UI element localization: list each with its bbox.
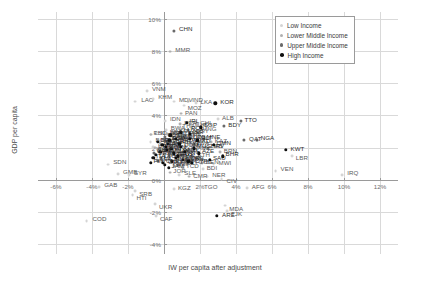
data-point[interactable] [274, 169, 277, 172]
data-point-label: SAU [213, 154, 226, 161]
x-tick-label: -6% [50, 183, 61, 190]
data-point-label: SDN [113, 158, 126, 165]
data-point-label: IRL [190, 117, 200, 124]
data-point[interactable] [154, 146, 157, 149]
legend-item-lower-middle-income[interactable]: Lower Middle Income [280, 30, 348, 40]
x-tick-mark [56, 178, 57, 181]
x-tick-label: 12% [374, 183, 387, 190]
data-point-label: BEL [161, 136, 173, 143]
data-point-label: TGO [204, 183, 218, 190]
data-point[interactable] [187, 100, 190, 103]
x-tick-mark [380, 178, 381, 181]
y-tick-label: -4% [150, 241, 161, 248]
data-point[interactable] [169, 171, 172, 174]
x-tick-mark [344, 178, 345, 181]
data-point[interactable] [117, 173, 120, 176]
data-point[interactable] [134, 190, 137, 193]
legend-marker-icon [280, 34, 283, 37]
data-point[interactable] [290, 155, 293, 158]
data-point[interactable] [199, 186, 202, 189]
data-point[interactable] [188, 175, 191, 178]
data-point-label: IRQ [347, 169, 358, 176]
data-point[interactable] [131, 194, 134, 197]
data-point-label: PAN [185, 109, 197, 116]
data-point[interactable] [107, 163, 110, 166]
legend-label: Upper Middle Income [287, 42, 348, 49]
data-point[interactable] [284, 148, 287, 151]
data-point[interactable] [245, 186, 248, 189]
data-point-label: KWT [291, 145, 305, 152]
data-point-label: KHM [158, 93, 172, 100]
data-point-label: KGZ [178, 184, 191, 191]
x-tick-label: 10% [338, 183, 351, 190]
data-point[interactable] [215, 214, 218, 217]
data-point-label: COD [93, 215, 107, 222]
data-point[interactable] [341, 173, 344, 176]
data-point-label: MDV [179, 96, 193, 103]
data-point[interactable] [243, 139, 246, 142]
data-point[interactable] [98, 186, 101, 189]
data-point-label: VNM [152, 85, 166, 92]
legend-item-high-income[interactable]: High Income [280, 50, 348, 60]
data-point[interactable] [224, 204, 227, 207]
data-point-label: NGA [261, 134, 275, 141]
data-point[interactable] [172, 29, 175, 32]
data-point-label: CHN [179, 25, 193, 32]
x-tick-mark [92, 178, 93, 181]
data-point-label: CAF [160, 215, 173, 222]
data-point-label: LBR [296, 154, 308, 161]
legend: Low IncomeLower Middle IncomeUpper Middl… [275, 16, 355, 64]
data-point-label: UKR [159, 203, 172, 210]
data-point[interactable] [152, 98, 155, 101]
y-tick-mark [164, 212, 167, 213]
legend-label: Low Income [287, 22, 321, 29]
data-point[interactable] [149, 161, 152, 164]
data-point-label: AZE [202, 147, 214, 154]
data-point[interactable] [180, 112, 183, 115]
legend-item-low-income[interactable]: Low Income [280, 20, 348, 30]
data-point[interactable] [182, 104, 185, 107]
x-axis-title: IW per capita after adjustment [168, 264, 261, 271]
data-point-label: SYR [134, 169, 147, 176]
data-point-label: MMR [175, 46, 190, 53]
x-tick-label: -4% [86, 183, 97, 190]
gridline-vertical [272, 12, 273, 254]
data-point[interactable] [172, 100, 175, 103]
data-point[interactable] [169, 50, 172, 53]
data-point[interactable] [163, 119, 166, 122]
legend-marker-icon [280, 43, 283, 46]
data-point[interactable] [223, 124, 226, 127]
y-tick-mark [164, 51, 167, 52]
data-point[interactable] [167, 166, 170, 169]
data-point[interactable] [145, 90, 148, 93]
data-point-label: VEN [281, 165, 294, 172]
data-point[interactable] [201, 168, 204, 171]
y-tick-label: 8% [152, 47, 161, 54]
data-point[interactable] [220, 178, 223, 181]
data-point[interactable] [149, 140, 152, 143]
gridline-vertical [380, 12, 381, 254]
data-point-label: BHR [226, 150, 239, 157]
y-tick-label: 0% [152, 176, 161, 183]
data-point[interactable] [149, 133, 152, 136]
data-point[interactable] [134, 100, 137, 103]
data-point[interactable] [217, 118, 220, 121]
y-tick-label: 10% [148, 15, 161, 22]
data-point-label: CRI [173, 129, 184, 136]
data-point[interactable] [179, 123, 182, 126]
data-point[interactable] [154, 215, 157, 218]
data-point-label: NER [212, 171, 225, 178]
y-tick-mark [164, 83, 167, 84]
legend-label: Lower Middle Income [287, 32, 348, 39]
data-point[interactable] [85, 219, 88, 222]
data-point-label: BDY [228, 121, 241, 128]
data-point[interactable] [178, 173, 181, 176]
legend-item-upper-middle-income[interactable]: Upper Middle Income [280, 40, 348, 50]
data-point-label: SGP [204, 121, 217, 128]
data-point[interactable] [172, 187, 175, 190]
data-point[interactable] [214, 101, 217, 104]
data-point-label: IND [192, 96, 203, 103]
data-point[interactable] [154, 203, 157, 206]
data-point[interactable] [127, 173, 130, 176]
data-point-label: GAB [104, 181, 117, 188]
